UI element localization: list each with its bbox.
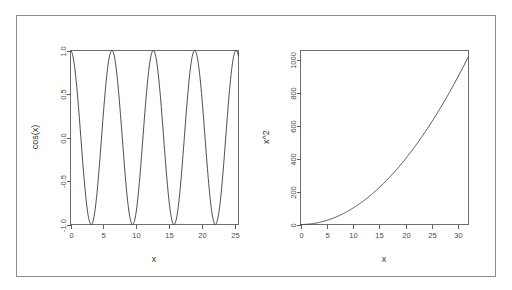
x-tick-label: 25 [231,231,239,240]
y-tick-label: 1000 [289,52,298,69]
x-tick-label: 0 [69,231,73,240]
chart-panel-square: 02004006008001000 051015202530 x x^2 [256,0,512,290]
x-tick-label: 0 [299,231,303,240]
x-tick-label: 10 [132,231,140,240]
x-tick-label: 5 [325,231,329,240]
x-tick-label: 15 [375,231,383,240]
y-tick-label: 600 [289,120,298,133]
figure-root: -1.0-0.50.00.51.0 0510152025 x cos(x) 02… [0,0,512,290]
y-tick-label: 200 [289,186,298,199]
x-tick-label: 25 [428,231,436,240]
cosine-plot-box [71,51,239,225]
square-plot-svg: 02004006008001000 051015202530 x x^2 [256,0,512,290]
x-tick-label: 20 [198,231,206,240]
x-tick-label: 15 [165,231,173,240]
y-tick-label: 400 [289,153,298,166]
y-tick-label: 0 [289,223,298,227]
y-tick-label: -0.5 [59,175,68,188]
square-x-axis-ticks: 051015202530 [299,225,462,240]
cosine-y-axis-title: cos(x) [30,125,40,150]
y-tick-label: 800 [289,87,298,100]
y-tick-label: -1.0 [59,219,68,232]
cosine-x-axis-ticks: 0510152025 [69,225,239,240]
square-plot-box [301,51,469,225]
x-tick-label: 5 [101,231,105,240]
square-x-axis-title: x [382,254,387,264]
square-y-axis-title: x^2 [261,130,271,144]
cosine-y-axis-ticks: -1.0-0.50.00.51.0 [59,46,71,232]
square-y-axis-ticks: 02004006008001000 [289,52,301,227]
y-tick-label: 0.0 [59,133,68,143]
square-data-curve [301,56,469,224]
x-tick-label: 20 [402,231,410,240]
x-tick-label: 30 [454,231,462,240]
cosine-data-curve [71,51,239,225]
x-tick-label: 10 [349,231,357,240]
chart-panel-cosine: -1.0-0.50.00.51.0 0510152025 x cos(x) [0,0,256,290]
cosine-x-axis-title: x [152,254,157,264]
y-tick-label: 1.0 [59,46,68,56]
y-tick-label: 0.5 [59,89,68,99]
cosine-plot-svg: -1.0-0.50.00.51.0 0510152025 x cos(x) [0,0,256,290]
